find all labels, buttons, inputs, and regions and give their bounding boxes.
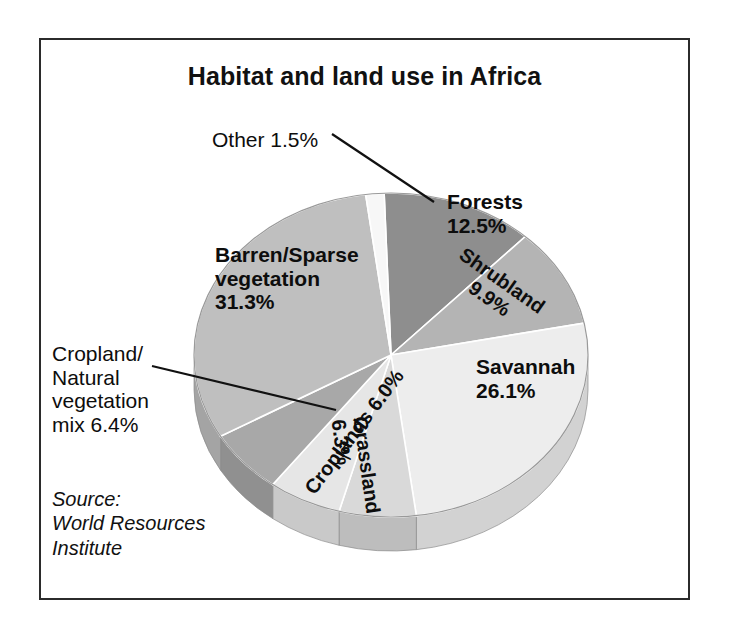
pie-chart-figure: Habitat and land use in Africa Other 1.5… [0, 0, 731, 634]
page-title: Habitat and land use in Africa [39, 62, 690, 91]
slice-label-barren-sparse-vegetation: Barren/Sparse vegetation 31.3% [215, 243, 359, 314]
slice-label-savannah: Savannah 26.1% [476, 355, 575, 402]
slice-label-other: Other 1.5% [212, 128, 318, 152]
slice-label-cropland-natural-vegetation-mix: Cropland/ Natural vegetation mix 6.4% [52, 342, 149, 436]
source-note: Source: World Resources Institute [52, 487, 205, 560]
slice-label-forests: Forests 12.5% [447, 190, 523, 237]
pie-slice[interactable] [391, 323, 588, 516]
